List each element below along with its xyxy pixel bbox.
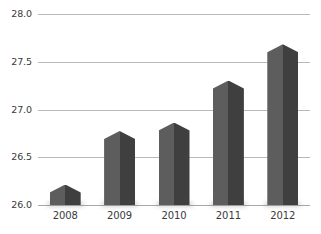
bar-chart: 26.026.527.027.528.0 2008200920102011201… xyxy=(0,0,321,234)
bar-face-left xyxy=(50,185,66,205)
x-tick-label-2012: 2012 xyxy=(257,211,309,221)
bar-face-left xyxy=(267,44,283,205)
bar-body xyxy=(104,131,135,205)
bar-face-right xyxy=(228,81,244,206)
bar-face-left xyxy=(159,123,175,205)
bar-body xyxy=(267,44,298,205)
bar-body xyxy=(213,81,244,206)
bar-2008 xyxy=(50,185,81,205)
y-tick-label: 26.5 xyxy=(0,152,32,162)
bar-2011 xyxy=(213,81,244,206)
bar-face-right xyxy=(174,123,190,205)
bar-body xyxy=(159,123,190,205)
gridline-28.0 xyxy=(38,14,310,15)
bar-face-left xyxy=(104,131,120,205)
x-tick-label-2008: 2008 xyxy=(39,211,91,221)
y-tick-label: 27.5 xyxy=(0,57,32,67)
bar-face-left xyxy=(213,81,229,206)
bar-face-right xyxy=(65,185,81,205)
cropped-caption-text xyxy=(6,227,315,234)
x-tick-label-2010: 2010 xyxy=(148,211,200,221)
y-tick-label: 26.0 xyxy=(0,200,32,210)
x-tick-label-2011: 2011 xyxy=(202,211,254,221)
bar-face-right xyxy=(283,44,299,205)
y-tick-label: 27.0 xyxy=(0,105,32,115)
bar-face-right xyxy=(120,131,136,205)
y-tick-label: 28.0 xyxy=(0,9,32,19)
bar-2009 xyxy=(104,131,135,205)
bar-body xyxy=(50,185,81,205)
bar-2010 xyxy=(159,123,190,205)
bar-2012 xyxy=(267,44,298,205)
x-tick-label-2009: 2009 xyxy=(94,211,146,221)
plot-area xyxy=(38,14,310,205)
